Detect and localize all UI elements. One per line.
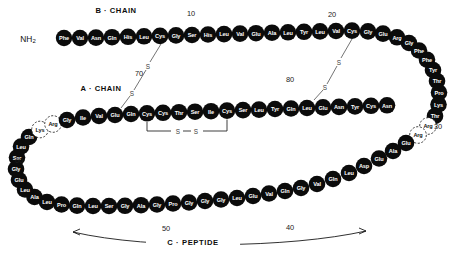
disulfide-s-bottom: S	[323, 84, 327, 91]
residue-gly-65: Gly	[59, 112, 76, 129]
residue-label: Ser	[188, 32, 198, 38]
residue-gly-44: Gly	[213, 191, 230, 208]
residue-label: Leu	[88, 203, 98, 209]
residue-label: Pro	[169, 201, 179, 207]
residue-label: Glu	[111, 112, 121, 118]
residue-cys-71: Cys	[155, 105, 172, 122]
residue-label: Thr	[431, 113, 441, 119]
residue-cys-70: Cys	[139, 105, 156, 122]
b-chain-title: B · CHAIN	[95, 6, 136, 15]
residue-glu-68: Glu	[107, 107, 124, 124]
residue-label: Arg	[413, 132, 423, 138]
residue-his-9: His	[200, 26, 217, 43]
disulfide-s-bottom: S	[130, 90, 134, 97]
residue-label: Gly	[297, 185, 307, 191]
residue-label: Cys	[142, 111, 152, 117]
residue-label: Gly	[364, 29, 374, 35]
residue-leu-5: Leu	[136, 28, 153, 45]
residue-val-11: Val	[232, 25, 249, 42]
residue-label: Leu	[283, 30, 293, 36]
disulfide-bond-a6-a11: S S	[147, 120, 227, 135]
number-marker-60: 60	[15, 156, 23, 165]
number-marker-30: 30	[434, 122, 442, 131]
residue-label: Lys	[434, 102, 443, 108]
residue-label: Cys	[222, 108, 232, 114]
residue-gln-37: Gln	[325, 171, 342, 188]
residue-label: Arg	[48, 121, 58, 127]
residue-label: Lys	[36, 127, 45, 133]
residue-label: Cys	[158, 110, 168, 116]
residue-label: Asp	[359, 163, 370, 169]
residue-ala-49: Ala	[133, 197, 150, 214]
residue-gly-50: Gly	[117, 198, 134, 215]
residue-label: Pro	[57, 202, 67, 208]
residue-label: Ile	[80, 115, 86, 121]
residue-label: Cys	[347, 28, 357, 34]
residue-glu-12: Glu	[248, 25, 265, 42]
residue-label: Leu	[254, 107, 264, 113]
residue-label: Asn	[334, 104, 345, 110]
c-peptide-label: C · PEPTIDE	[167, 238, 218, 247]
residue-label: Gln	[281, 188, 291, 194]
residue-leu-77: Leu	[251, 101, 268, 118]
residue-label: Ser	[191, 109, 201, 115]
residue-gln-40: Gln	[277, 183, 294, 200]
residue-label: Ala	[137, 203, 146, 209]
residue-label: Glu	[379, 31, 389, 37]
residue-label: Gly	[172, 33, 182, 39]
residue-label: Gly	[12, 166, 22, 172]
residue-leu-80: Leu	[299, 100, 316, 117]
residue-ile-74: Ile	[203, 103, 220, 120]
number-marker-50: 50	[162, 224, 170, 233]
residue-cys-18: Cys	[344, 22, 361, 39]
residue-val-17: Val	[328, 23, 345, 40]
residue-label: Glu	[319, 105, 329, 111]
residue-label: Tyr	[351, 104, 360, 110]
residue-label: Ala	[389, 148, 398, 154]
residue-label: Ile	[208, 109, 214, 115]
residue-label: Glu	[249, 193, 259, 199]
residue-label: Ser	[239, 107, 249, 113]
residue-cys-75: Cys	[219, 102, 236, 119]
residue-label: Pro	[435, 90, 445, 96]
number-marker-70: 70	[135, 69, 143, 78]
residue-leu-14: Leu	[280, 24, 297, 41]
residue-ala-33: Ala	[385, 143, 402, 160]
residue-label: Glu	[402, 140, 412, 146]
disulfide-s-left: S	[176, 128, 180, 135]
number-marker-10: 10	[187, 9, 195, 18]
residue-tyr-78: Tyr	[267, 101, 284, 118]
residue-gln-69: Gln	[123, 106, 140, 123]
residue-ser-51: Ser	[101, 198, 118, 215]
residue-leu-36: Leu	[341, 165, 358, 182]
residue-label: His	[124, 34, 132, 40]
disulfide-s-top: S	[146, 63, 150, 70]
residue-ala-13: Ala	[264, 24, 281, 41]
residue-label: Glu	[375, 156, 385, 162]
residue-val-67: Val	[91, 108, 108, 125]
residue-label: Gln	[108, 35, 118, 41]
residue-label: Leu	[16, 144, 26, 150]
residue-asn-85: Asn	[379, 97, 396, 114]
residue-label: Cys	[366, 103, 376, 109]
number-marker-80: 80	[286, 75, 294, 84]
c-peptide-bracket: C · PEPTIDE	[73, 228, 366, 248]
residue-leu-52: Leu	[85, 198, 102, 215]
residue-his-4: His	[120, 29, 137, 46]
residue-glu-20: Glu	[375, 25, 392, 42]
residue-gly-19: Gly	[360, 23, 377, 40]
residue-leu-43: Leu	[229, 190, 246, 207]
residue-group: PheValAsnGlnHisLeuCysGlySerHisLeuValGluA…	[8, 22, 448, 214]
residue-label: Arg	[392, 35, 402, 41]
residue-label: Glu	[15, 177, 25, 183]
residue-cys-84: Cys	[363, 98, 380, 115]
residue-tyr-15: Tyr	[296, 24, 313, 41]
residue-label: Gly	[201, 198, 211, 204]
disulfide-s-right: S	[194, 128, 198, 135]
disulfide-bond-b19-a20: S S	[314, 39, 352, 100]
residue-label: Gln	[329, 176, 339, 182]
residue-label: Leu	[302, 105, 312, 111]
residue-label: Val	[95, 113, 103, 119]
residue-ser-76: Ser	[235, 102, 252, 119]
residue-asp-35: Asp	[356, 158, 373, 175]
